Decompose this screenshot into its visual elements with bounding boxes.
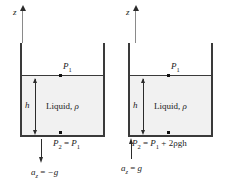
z-axis-arrowhead-icon: [20, 5, 26, 11]
acceleration-value: g: [138, 163, 143, 173]
acceleration-value: −g: [48, 167, 59, 177]
surface-point-marker: [167, 74, 170, 77]
acceleration-arrow-shaft: [41, 139, 42, 158]
acceleration-label: az = g: [121, 163, 142, 177]
liquid-label: Liquid, ρ: [154, 101, 187, 111]
tank-floor: [20, 135, 105, 137]
liquid-surface-line: [128, 75, 213, 76]
tank-right-wall: [211, 43, 213, 137]
fluid-statics-figure: z h Liquid, ρ P1 P2 = P1 az = −g z: [0, 0, 226, 187]
surface-pressure-label: P1: [63, 62, 72, 74]
depth-label: h: [133, 101, 138, 110]
density-symbol: ρ: [183, 101, 187, 111]
bottom-point-marker: [167, 131, 170, 134]
depth-arrowhead-down-icon: [141, 130, 145, 135]
surface-pressure-subscript: 1: [177, 66, 180, 73]
panel-upward-acceleration: z h Liquid, ρ P1 P2 = P1 + 2ρgh az = g: [113, 0, 226, 187]
surface-point-marker: [59, 74, 62, 77]
bottom-pressure-equation: P2 = P1: [53, 138, 80, 152]
depth-dimension-shaft: [143, 79, 144, 131]
depth-dimension-shaft: [35, 79, 36, 131]
liquid-surface-line: [20, 75, 105, 76]
liquid-label: Liquid, ρ: [46, 101, 79, 111]
bottom-pressure-extra: + 2ρgh: [159, 138, 187, 148]
surface-pressure-label: P1: [171, 62, 180, 74]
depth-label: h: [25, 101, 30, 110]
z-axis-arrowhead-icon: [133, 5, 139, 11]
z-axis-shaft: [135, 10, 136, 43]
tank-floor: [128, 135, 213, 137]
acceleration-label: az = −g: [31, 167, 58, 181]
bottom-point-marker: [59, 131, 62, 134]
tank-right-wall: [103, 43, 105, 137]
bottom-pressure-rhs-sub: 1: [77, 143, 80, 150]
depth-arrowhead-down-icon: [33, 130, 37, 135]
density-symbol: ρ: [75, 101, 79, 111]
panel-free-fall: z h Liquid, ρ P1 P2 = P1 az = −g: [0, 0, 113, 187]
z-axis-shaft: [22, 10, 23, 43]
z-axis-label: z: [126, 8, 130, 17]
liquid-label-text: Liquid,: [154, 101, 183, 111]
liquid-label-text: Liquid,: [46, 101, 75, 111]
bottom-pressure-equation: P2 = P1 + 2ρgh: [132, 138, 187, 152]
acceleration-arrow-shaft: [131, 143, 132, 159]
surface-pressure-subscript: 1: [69, 66, 72, 73]
z-axis-label: z: [13, 8, 17, 17]
acceleration-arrowhead-down-icon: [39, 157, 43, 163]
